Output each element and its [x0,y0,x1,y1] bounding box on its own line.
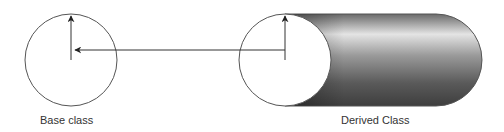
inheritance-diagram [0,0,504,132]
derived-class-node [239,14,482,106]
base-class-node [25,14,117,106]
base-class-label: Base class [40,114,93,126]
derived-class-label: Derived Class [341,114,409,126]
